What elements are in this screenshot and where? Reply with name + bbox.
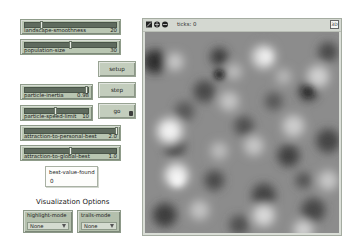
slider-thumb[interactable] — [69, 41, 72, 49]
step-button-label: step — [111, 87, 123, 93]
chevron-down-icon — [62, 224, 66, 228]
slider-particle-inertia[interactable]: particle-inertia 0.98 — [20, 84, 93, 100]
chooser-label: highlight-mode — [27, 212, 66, 218]
forever-icon — [129, 111, 133, 116]
slider-label: attraction-to-global-best — [24, 153, 90, 159]
slider-label: population-size — [24, 47, 65, 53]
3d-view-button[interactable]: 3D — [330, 20, 339, 29]
setup-button-label: setup — [109, 66, 125, 72]
slider-label: particle-inertia — [24, 92, 64, 98]
vertical-wrap-icon[interactable] — [162, 21, 168, 28]
view-toolbar: ticks: 0 3D — [143, 19, 341, 32]
landscape-canvas[interactable] — [145, 32, 339, 233]
slider-label: landscape-smoothness — [24, 27, 86, 33]
horizontal-wrap-icon[interactable] — [154, 21, 160, 28]
setup-button[interactable]: setup — [98, 61, 136, 77]
slider-label: particle-speed-limit — [24, 113, 76, 119]
visualization-options-title: Visualization Options — [36, 198, 109, 206]
chooser-label: trails-mode — [81, 212, 111, 218]
chevron-down-icon — [110, 224, 114, 228]
follow-icon[interactable] — [146, 21, 152, 28]
slider-value: 2.0 — [108, 133, 117, 139]
slider-value: 1.0 — [108, 153, 117, 159]
slider-landscape-smoothness[interactable]: landscape-smoothness 20 — [20, 19, 121, 35]
ticks-counter: ticks: 0 — [177, 21, 196, 27]
slider-attraction-to-global-best[interactable]: attraction-to-global-best 1.0 — [20, 145, 121, 161]
trails-mode-chooser[interactable]: trails-mode None — [77, 210, 121, 233]
slider-value: 30 — [110, 47, 117, 53]
go-button-label: go — [114, 108, 121, 114]
go-button[interactable]: go — [98, 103, 136, 119]
world-view: ticks: 0 3D — [142, 18, 342, 236]
monitor-label: best-value-found — [49, 169, 95, 175]
chooser-value: None — [30, 223, 44, 230]
slider-value: 20 — [110, 27, 117, 33]
slider-particle-speed-limit[interactable]: particle-speed-limit 10 — [20, 105, 93, 121]
chooser-dropdown[interactable]: None — [81, 222, 117, 230]
chooser-dropdown[interactable]: None — [27, 222, 69, 230]
slider-label: attraction-to-personal-best — [24, 133, 97, 139]
slider-value: 10 — [82, 113, 89, 119]
slider-value: 0.98 — [77, 92, 89, 98]
chooser-value: None — [84, 223, 98, 230]
slider-population-size[interactable]: population-size 30 — [20, 39, 121, 55]
landscape-heatmap — [145, 32, 339, 233]
monitor-value: 0 — [50, 178, 54, 184]
highlight-mode-chooser[interactable]: highlight-mode None — [23, 210, 73, 233]
slider-attraction-to-personal-best[interactable]: attraction-to-personal-best 2.0 — [20, 125, 121, 141]
best-value-found-monitor: best-value-found 0 — [45, 166, 98, 187]
step-button[interactable]: step — [98, 82, 136, 98]
